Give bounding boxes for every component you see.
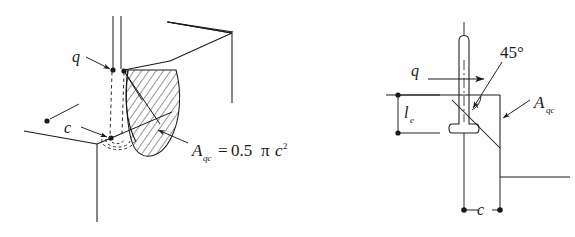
slab-floor-left-edge bbox=[24, 131, 97, 144]
leader-line-45deg bbox=[473, 62, 502, 108]
cone-base-arc-outer bbox=[102, 139, 134, 150]
label-c-right: c bbox=[477, 201, 484, 218]
leader-line-area-right bbox=[503, 100, 530, 118]
label-A-right-subscript: qc bbox=[546, 105, 555, 115]
label-le: l bbox=[404, 104, 409, 121]
node-anchor-head-right bbox=[121, 68, 126, 73]
cone-base-arc-middle bbox=[106, 139, 130, 147]
label-c-left: c bbox=[64, 119, 71, 136]
formula-equals: = bbox=[218, 141, 228, 160]
formula-A: A bbox=[191, 141, 203, 160]
label-45-degrees: 45° bbox=[500, 43, 524, 62]
left-diagram-group: q c A qc = 0.5 π c 2 bbox=[24, 16, 288, 222]
dim-dot-le-top bbox=[395, 92, 400, 97]
node-cone-base-center bbox=[108, 135, 113, 140]
slab-top-edge-right bbox=[170, 33, 232, 61]
label-q-right: q bbox=[411, 62, 419, 80]
leader-line-c-upper bbox=[50, 104, 79, 119]
formula-value: 0.5 bbox=[231, 141, 252, 160]
right-diagram-group: 45° q l e A qc c bbox=[386, 22, 570, 218]
slab-top-edge-back bbox=[167, 22, 232, 33]
formula-pi: π bbox=[261, 141, 270, 160]
label-le-subscript: e bbox=[410, 115, 414, 125]
label-q-left: q bbox=[72, 48, 80, 66]
label-A-right: A bbox=[533, 93, 545, 112]
formula-area-qc: A qc = 0.5 π c 2 bbox=[191, 141, 288, 163]
dim-dot-c-left bbox=[461, 207, 467, 213]
slab-top-surface bbox=[124, 22, 233, 70]
formula-A-subscript: qc bbox=[203, 153, 212, 163]
engineering-diagram-svg: q c A qc = 0.5 π c 2 bbox=[0, 0, 575, 237]
leader-line-q-left bbox=[86, 57, 110, 69]
dim-dot-c-right bbox=[497, 207, 503, 213]
formula-c: c bbox=[275, 141, 283, 160]
node-c-reference-point bbox=[44, 118, 49, 123]
dim-dot-le-bottom bbox=[395, 130, 400, 135]
formula-exponent: 2 bbox=[283, 141, 288, 151]
node-anchor-head-left bbox=[110, 67, 115, 72]
figure-root: q c A qc = 0.5 π c 2 bbox=[0, 0, 575, 237]
